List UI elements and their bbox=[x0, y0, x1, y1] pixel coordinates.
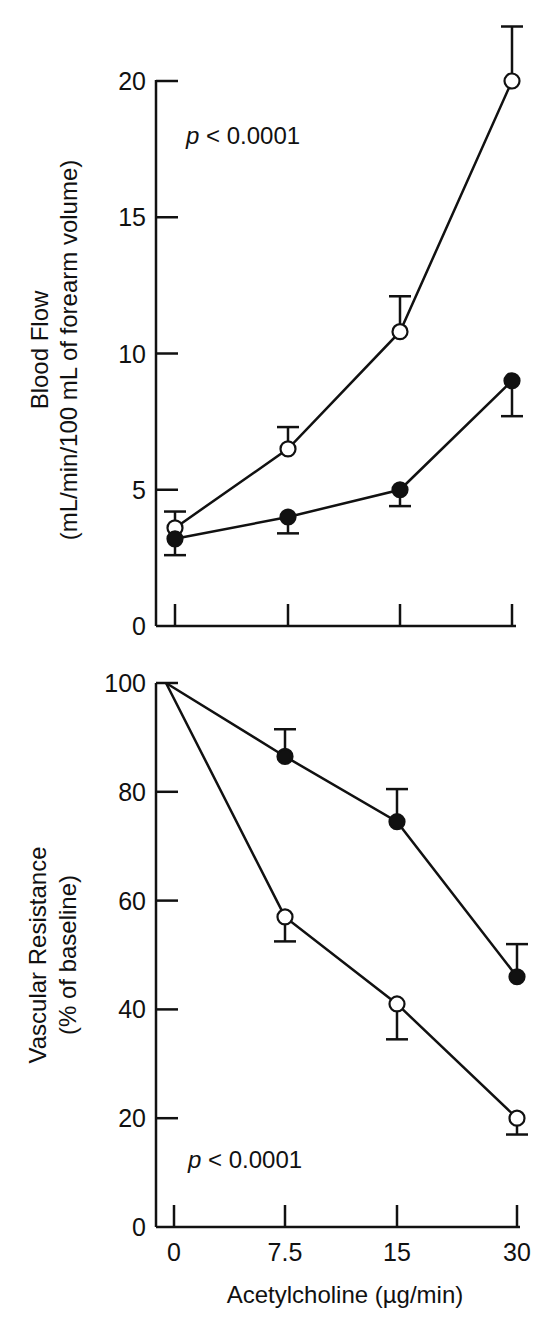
y-tick-label: 0 bbox=[132, 1213, 146, 1241]
y-tick-label: 100 bbox=[104, 669, 146, 697]
y-tick-label: 20 bbox=[118, 1104, 146, 1132]
y-tick-label: 20 bbox=[118, 67, 146, 95]
y-tick-label: 60 bbox=[118, 887, 146, 915]
series-filled-circles bbox=[164, 373, 523, 555]
filled-circle-marker bbox=[168, 531, 183, 546]
blood-flow-chart: 05101520 p < 0.0001 Blood Flow (mL/min/1… bbox=[26, 27, 523, 641]
open-circle-marker bbox=[393, 324, 408, 339]
x-tick-label: 15 bbox=[383, 1238, 411, 1266]
y-axis-title-line2: (% of baseline) bbox=[54, 875, 81, 1035]
data-series bbox=[164, 27, 523, 556]
acetylcholine-response-figure: 05101520 p < 0.0001 Blood Flow (mL/min/1… bbox=[0, 0, 556, 1319]
vascular-resistance-chart: 020406080100 07.51530 p < 0.0001 Vascula… bbox=[24, 669, 531, 1308]
p-value-annotation: p < 0.0001 bbox=[185, 122, 300, 149]
x-axis-title: Acetylcholine (µg/min) bbox=[227, 1281, 464, 1308]
p-value-annotation: p < 0.0001 bbox=[187, 1146, 302, 1173]
open-circle-marker bbox=[505, 74, 520, 89]
y-tick-label: 0 bbox=[132, 612, 146, 640]
open-circle-marker bbox=[510, 1111, 525, 1126]
y-tick-label: 40 bbox=[118, 995, 146, 1023]
filled-circle-marker bbox=[510, 969, 525, 984]
open-circle-marker bbox=[390, 996, 405, 1011]
y-axis-title-line2: (mL/min/100 mL of forearm volume) bbox=[55, 160, 82, 541]
filled-circle-marker bbox=[390, 814, 405, 829]
filled-circle-marker bbox=[505, 373, 520, 388]
filled-circle-marker bbox=[278, 749, 293, 764]
open-circle-marker bbox=[278, 909, 293, 924]
x-tick-label: 0 bbox=[167, 1238, 181, 1266]
y-tick-label: 15 bbox=[118, 203, 146, 231]
filled-circle-marker bbox=[393, 482, 408, 497]
series-open-circles bbox=[166, 683, 528, 1135]
data-series bbox=[166, 683, 528, 1135]
open-circle-marker bbox=[281, 441, 296, 456]
series-open-circles bbox=[164, 27, 523, 536]
filled-circle-marker bbox=[281, 510, 296, 525]
x-tick-label: 30 bbox=[503, 1238, 531, 1266]
x-tick-label: 7.5 bbox=[268, 1238, 303, 1266]
y-axis-title-line1: Blood Flow bbox=[26, 290, 53, 409]
y-tick-label: 10 bbox=[118, 340, 146, 368]
y-axis-title-line1: Vascular Resistance bbox=[24, 847, 51, 1064]
y-axis: 020406080100 07.51530 bbox=[104, 669, 531, 1266]
series-filled-circles bbox=[166, 683, 528, 984]
y-tick-label: 80 bbox=[118, 778, 146, 806]
y-tick-label: 5 bbox=[132, 476, 146, 504]
